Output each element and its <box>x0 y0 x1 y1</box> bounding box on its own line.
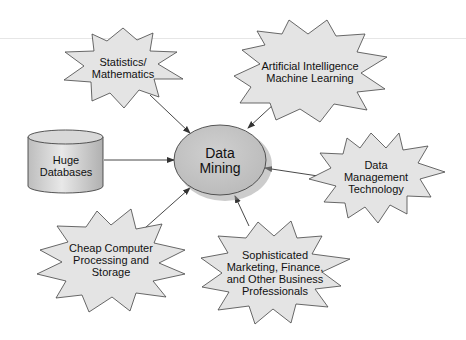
edge-ai <box>248 104 274 128</box>
node-label-line: and Other Business <box>227 273 324 285</box>
node-label-line: Huge <box>40 154 93 166</box>
node-label-line: Management <box>344 171 408 183</box>
node-label-line: Data <box>344 159 408 171</box>
node-label-cheap-computer: Cheap Computer Processing and Storage <box>69 242 153 278</box>
node-label-line: Artificial Intelligence <box>261 60 358 72</box>
center-label-data-mining: Data Mining <box>199 146 240 176</box>
edge-statistics <box>150 95 190 133</box>
node-label-line: Processing and <box>69 254 153 266</box>
center-label-line: Mining <box>199 161 240 176</box>
node-label-line: Marketing, Finance, <box>227 261 324 273</box>
node-label-line: Sophisticated <box>227 249 324 261</box>
node-label-ai: Artificial Intelligence Machine Learning <box>261 60 358 84</box>
edge-cheap-computer <box>145 188 190 228</box>
node-label-professionals: Sophisticated Marketing, Finance, and Ot… <box>227 249 324 297</box>
edge-data-management <box>265 168 318 176</box>
node-label-line: Cheap Computer <box>69 242 153 254</box>
node-label-line: Machine Learning <box>261 72 358 84</box>
node-label-databases: Huge Databases <box>40 154 93 178</box>
node-label-line: Storage <box>69 266 153 278</box>
node-label-line: Technology <box>344 183 408 195</box>
node-label-line: Professionals <box>227 285 324 297</box>
node-label-statistics: Statistics/ Mathematics <box>92 56 154 80</box>
center-label-line: Data <box>199 146 240 161</box>
node-label-line: Mathematics <box>92 68 154 80</box>
node-label-data-management: Data Management Technology <box>344 159 408 195</box>
node-label-line: Databases <box>40 166 93 178</box>
edge-professionals <box>235 196 249 226</box>
node-label-line: Statistics/ <box>92 56 154 68</box>
